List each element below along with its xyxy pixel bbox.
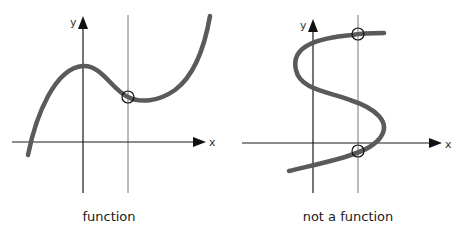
caption-not-a-function: not a function bbox=[303, 209, 394, 224]
x-axis-label: x bbox=[445, 138, 452, 151]
y-axis-arrow-icon bbox=[78, 16, 88, 29]
caption-function: function bbox=[82, 209, 135, 224]
y-axis-label: y bbox=[300, 19, 307, 32]
s-curve bbox=[289, 33, 384, 171]
x-axis-arrow-icon bbox=[429, 138, 442, 148]
function-curve bbox=[28, 16, 210, 155]
diagram-canvas: y x function y x not a function bbox=[0, 0, 467, 239]
function-panel: y x function bbox=[12, 15, 216, 224]
not-a-function-panel: y x not a function bbox=[242, 15, 452, 224]
x-axis-arrow-icon bbox=[193, 137, 206, 147]
x-axis-label: x bbox=[209, 136, 216, 149]
y-axis-label: y bbox=[70, 16, 77, 29]
y-axis-arrow-icon bbox=[308, 19, 318, 32]
